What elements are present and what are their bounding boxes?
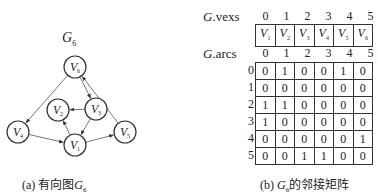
matrix-cell: 0 bbox=[314, 131, 334, 148]
matrix-cell: 0 bbox=[334, 148, 354, 165]
svg-text:2: 2 bbox=[60, 111, 63, 117]
edge-v3-v1 bbox=[81, 119, 90, 135]
matrix-cell: 0 bbox=[256, 80, 276, 97]
matrix-row: 000001 bbox=[256, 131, 373, 148]
matrix-cell: 0 bbox=[295, 63, 315, 80]
directed-graph: V1V2V3V4V5V6 bbox=[0, 0, 150, 170]
node-v1: V1 bbox=[64, 134, 86, 156]
vexs-cell: V3 bbox=[295, 25, 315, 47]
matrix-cell: 0 bbox=[353, 148, 373, 165]
matrix-cell: 0 bbox=[256, 63, 276, 80]
arcs-col-index: 2 bbox=[297, 46, 318, 61]
matrix-cell: 0 bbox=[295, 131, 315, 148]
vexs-index: 0 bbox=[255, 9, 276, 24]
arcs-row-index: 2 bbox=[244, 96, 254, 113]
edge-v1-v5 bbox=[86, 135, 114, 142]
matrix-cell: 0 bbox=[314, 114, 334, 131]
matrix-cell: 1 bbox=[256, 114, 276, 131]
matrix-cell: 0 bbox=[314, 80, 334, 97]
vexs-index: 2 bbox=[297, 9, 318, 24]
arcs-row-index: 1 bbox=[244, 79, 254, 96]
matrix-cell: 1 bbox=[275, 63, 295, 80]
node-v4: V4 bbox=[7, 121, 29, 143]
arcs-col-index: 3 bbox=[318, 46, 339, 61]
svg-text:3: 3 bbox=[98, 110, 101, 116]
node-v6: V6 bbox=[64, 56, 86, 78]
matrix-row: 000000 bbox=[256, 80, 373, 97]
matrix-cell: 0 bbox=[353, 114, 373, 131]
vexs-cell: V1 bbox=[256, 25, 276, 47]
vexs-index: 1 bbox=[276, 9, 297, 24]
node-v2: V2 bbox=[47, 99, 69, 121]
matrix-cell: 1 bbox=[334, 63, 354, 80]
matrix-cell: 0 bbox=[334, 114, 354, 131]
edge-v4-v1 bbox=[29, 134, 64, 142]
arcs-row-index: 0 bbox=[244, 62, 254, 79]
matrix-cell: 0 bbox=[353, 97, 373, 114]
arcs-col-index: 4 bbox=[339, 46, 360, 61]
matrix-cell: 1 bbox=[275, 97, 295, 114]
matrix-row: 001100 bbox=[256, 148, 373, 165]
node-v3: V3 bbox=[85, 98, 107, 120]
vexs-index: 5 bbox=[360, 9, 378, 24]
node-v5: V5 bbox=[114, 121, 136, 143]
arcs-col-index: 0 bbox=[255, 46, 276, 61]
adjacency-matrix: 010010000000110000100000000001001100 bbox=[255, 62, 373, 165]
matrix-cell: 0 bbox=[334, 97, 354, 114]
matrix-cell: 0 bbox=[256, 148, 276, 165]
arcs-col-indices: 012345 bbox=[255, 46, 378, 61]
vexs-cell: V6 bbox=[353, 25, 373, 47]
matrix-cell: 0 bbox=[295, 97, 315, 114]
matrix-row: 110000 bbox=[256, 97, 373, 114]
matrix-cell: 0 bbox=[295, 80, 315, 97]
matrix-cell: 0 bbox=[275, 131, 295, 148]
vexs-index: 4 bbox=[339, 9, 360, 24]
matrix-cell: 0 bbox=[275, 114, 295, 131]
matrix-cell: 0 bbox=[256, 131, 276, 148]
vexs-cell: V5 bbox=[334, 25, 354, 47]
svg-text:5: 5 bbox=[127, 133, 130, 139]
matrix-caption: (b) G6的邻接矩阵 bbox=[260, 175, 349, 194]
matrix-cell: 0 bbox=[314, 63, 334, 80]
matrix-cell: 0 bbox=[314, 97, 334, 114]
arcs-col-index: 5 bbox=[360, 46, 378, 61]
matrix-cell: 1 bbox=[256, 97, 276, 114]
edge-v1-v2 bbox=[63, 121, 70, 135]
arcs-label: G.arcs bbox=[203, 46, 237, 62]
vexs-cell: V4 bbox=[314, 25, 334, 47]
arcs-row-index: 4 bbox=[244, 130, 254, 147]
matrix-cell: 0 bbox=[275, 80, 295, 97]
matrix-row: 010010 bbox=[256, 63, 373, 80]
svg-text:1: 1 bbox=[77, 146, 80, 152]
graph-caption: (a) 有向图G6 bbox=[22, 175, 87, 194]
vexs-cell: V2 bbox=[275, 25, 295, 47]
vexs-label: G.vexs bbox=[203, 9, 239, 25]
matrix-cell: 0 bbox=[275, 148, 295, 165]
vexs-index: 3 bbox=[318, 9, 339, 24]
arcs-row-indices: 012345 bbox=[244, 62, 254, 164]
nodes: V1V2V3V4V5V6 bbox=[7, 56, 136, 156]
matrix-cell: 0 bbox=[353, 63, 373, 80]
matrix-cell: 0 bbox=[353, 80, 373, 97]
svg-text:6: 6 bbox=[77, 68, 80, 74]
matrix-cell: 1 bbox=[314, 148, 334, 165]
matrix-row: 100000 bbox=[256, 114, 373, 131]
matrix-cell: 1 bbox=[353, 131, 373, 148]
arcs-col-index: 1 bbox=[276, 46, 297, 61]
matrix-cell: 1 bbox=[295, 148, 315, 165]
svg-text:4: 4 bbox=[20, 133, 23, 139]
matrix-cell: 0 bbox=[295, 114, 315, 131]
vexs-array: V1V2V3V4V5V6 bbox=[255, 24, 373, 47]
matrix-cell: 0 bbox=[334, 131, 354, 148]
arcs-row-index: 3 bbox=[244, 113, 254, 130]
arcs-row-index: 5 bbox=[244, 147, 254, 164]
matrix-cell: 0 bbox=[334, 80, 354, 97]
vexs-indices: 012345 bbox=[255, 9, 378, 24]
